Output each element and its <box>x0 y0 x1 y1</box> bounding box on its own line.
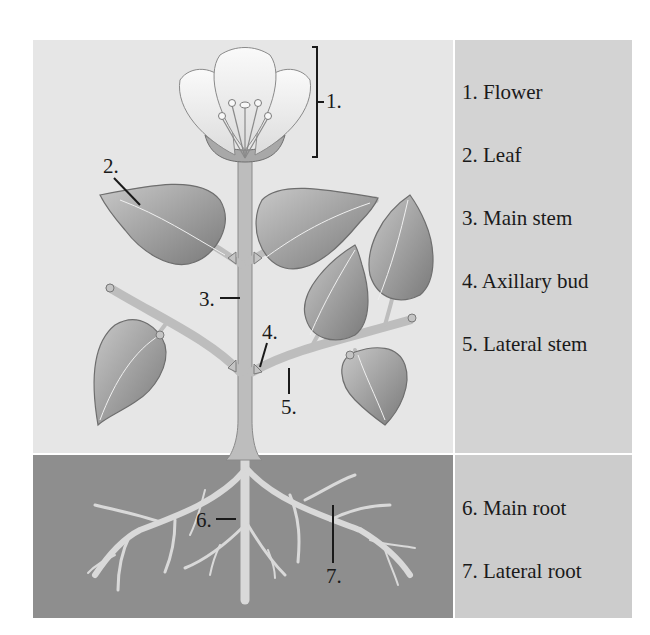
flower <box>179 48 310 163</box>
legend-item-lateral-root: 7. Lateral root <box>462 561 582 582</box>
root-system <box>88 455 415 600</box>
callout-lateral-stem: 5. <box>281 397 297 418</box>
flower-bracket <box>312 47 324 157</box>
callout-flower: 1. <box>326 91 342 112</box>
callout-main-stem: 3. <box>199 289 215 310</box>
callout-axillary-bud: 4. <box>262 322 278 343</box>
leaf-upper-left <box>100 184 225 264</box>
callout-main-root: 6. <box>196 510 212 531</box>
legend-item-leaf: 2. Leaf <box>462 145 521 166</box>
legend-item-main-root: 6. Main root <box>462 498 566 519</box>
callout-leaf: 2. <box>103 156 119 177</box>
legend-item-flower: 1. Flower <box>462 82 543 103</box>
leaf-lower-left <box>94 320 166 425</box>
leaf-lower-right <box>342 348 407 425</box>
legend-item-axillary-bud: 4. Axillary bud <box>462 271 589 292</box>
leaf-mid-right-2 <box>369 195 433 300</box>
plant-illustration <box>0 0 650 635</box>
legend-item-lateral-stem: 5. Lateral stem <box>462 334 587 355</box>
main-stem <box>226 160 262 460</box>
legend-item-main-stem: 3. Main stem <box>462 208 572 229</box>
callout-lateral-root: 7. <box>326 566 342 587</box>
